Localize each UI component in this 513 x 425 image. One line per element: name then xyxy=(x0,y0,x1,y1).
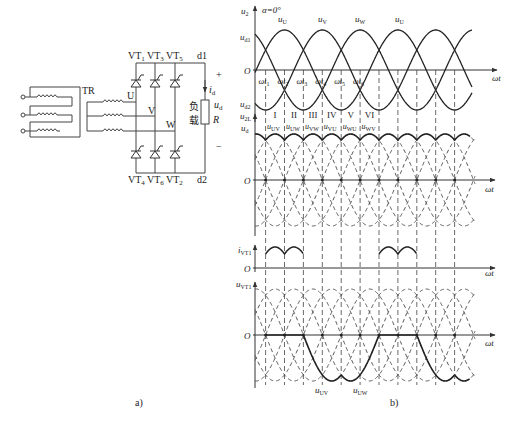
crossing-dot-1-0 xyxy=(264,334,267,337)
interval-roman-1: I xyxy=(274,110,277,120)
crossing-dot-0-8 xyxy=(415,179,418,182)
crossing-dot-0-9 xyxy=(434,179,437,182)
thyristor-bottom-2 xyxy=(170,146,183,158)
time-mark-2: ωt2 xyxy=(278,77,289,87)
origin-1: O xyxy=(244,66,251,76)
wt-axis-2: ωt xyxy=(485,184,494,194)
ud-envelope xyxy=(255,134,470,140)
ud1-label: ud1 xyxy=(240,32,251,43)
crossing-dot-0-5 xyxy=(359,179,362,182)
interval-roman-4: IV xyxy=(327,110,337,120)
thyristor-gate xyxy=(138,75,144,80)
interval-roman-3: III xyxy=(308,110,317,120)
wt-axis-1: ωt xyxy=(492,73,501,83)
crossing-dot-0-1 xyxy=(283,179,286,182)
phase-v-label: V xyxy=(148,105,156,116)
interval-voltage-6: uWV xyxy=(362,122,377,132)
thyristor-body xyxy=(170,151,180,158)
thyristor-bottom-0 xyxy=(131,146,144,158)
crossing-dot-0-3 xyxy=(321,179,324,182)
wt-axis-3: ωt xyxy=(485,268,494,278)
thyristor-gate xyxy=(177,75,183,80)
time-mark-5: ωt5 xyxy=(334,77,345,87)
origin-2: O xyxy=(244,176,251,186)
time-mark-3: ωt3 xyxy=(296,77,307,87)
time-mark-sub: 2 xyxy=(285,81,288,87)
load-cn-1: 负 xyxy=(189,100,199,112)
vt5-sub: 5 xyxy=(179,55,183,63)
thyristor-bottom-1 xyxy=(150,146,163,158)
u2L-axis-label: u2L xyxy=(240,111,252,122)
uvt1-bold-uUW-2 xyxy=(455,375,470,381)
vt6-label: VT6 xyxy=(147,174,164,187)
terminal-2 xyxy=(21,113,25,117)
crossing-dot-1-4 xyxy=(340,334,343,337)
crossing-dot-0-0 xyxy=(264,179,267,182)
tr-label: TR xyxy=(82,85,95,96)
time-mark-sub: 1 xyxy=(266,81,269,87)
crossing-dot-1-5 xyxy=(359,334,362,337)
terminal-3 xyxy=(21,129,25,133)
crossing-dot-0-2 xyxy=(302,179,305,182)
interval-roman-2: II xyxy=(291,110,297,120)
u2-axis-label: u2 xyxy=(241,6,249,17)
interval-voltage-2: uUW xyxy=(286,122,300,132)
three-phase-bridge-circuit xyxy=(21,63,209,173)
ivt1-axis-label: iVT1 xyxy=(238,245,252,256)
vt4-label: VT4 xyxy=(128,174,145,187)
thyristor-top-2 xyxy=(170,75,183,87)
crossing-dot-1-8 xyxy=(415,334,418,337)
thyristor-gate xyxy=(138,146,144,151)
interval-voltage-sub: VU xyxy=(328,126,337,132)
interval-voltage-5: uWU xyxy=(343,122,358,132)
thyristor-gate xyxy=(177,146,183,151)
id-label: id xyxy=(209,84,216,97)
thyristor-body xyxy=(150,80,160,87)
interval-voltage-3: uVW xyxy=(305,122,319,132)
phase-u-label: U xyxy=(127,90,135,101)
time-mark-sub: 6 xyxy=(361,81,364,87)
thyristor-gate xyxy=(157,75,163,80)
time-mark-1: ωt1 xyxy=(259,77,270,87)
ud-axis-label: ud xyxy=(241,123,249,134)
crossing-dot-0-10 xyxy=(453,179,456,182)
vt2-label: VT2 xyxy=(166,174,183,187)
time-mark-4: ωt4 xyxy=(315,77,326,87)
time-marks: ωt1ωt2ωt3ωt4ωt5ωt6 xyxy=(259,77,364,87)
interval-voltage-sub: UV xyxy=(271,126,280,132)
caption-a: a) xyxy=(135,397,143,409)
uW-peak-label: uW xyxy=(355,14,366,25)
vt3-label: VT3 xyxy=(147,50,164,63)
ud2-label: ud2 xyxy=(240,99,251,110)
waveform-plots xyxy=(253,6,497,388)
time-mark-sub: 5 xyxy=(342,81,345,87)
thyristor-body xyxy=(131,151,141,158)
interval-voltage-1: uUV xyxy=(267,122,280,132)
crossing-dot-0-4 xyxy=(340,179,343,182)
uV-peak-label: uV xyxy=(318,14,328,25)
phase-w-label: W xyxy=(166,119,176,130)
vt1-sub: 1 xyxy=(141,55,145,63)
vt4-sub: 4 xyxy=(141,179,145,187)
wt-axis-4: ωt xyxy=(485,338,494,348)
minus-sign: − xyxy=(216,141,222,152)
interval-voltage-sub: WV xyxy=(366,126,377,132)
terminal-1 xyxy=(21,95,25,99)
crossing-dot-1-6 xyxy=(378,334,381,337)
load-cn-2: 载 xyxy=(189,115,199,126)
plus-sign: + xyxy=(216,69,222,80)
uUW-bottom-label: uUW xyxy=(353,385,368,396)
caption-b: b) xyxy=(390,397,398,409)
thyristor-gate xyxy=(157,146,163,151)
interval-roman-6: VI xyxy=(365,110,375,120)
interval-voltage-sub: UW xyxy=(290,126,300,132)
crossing-dot-1-10 xyxy=(453,334,456,337)
thyristor-top-0 xyxy=(131,75,144,87)
interval-voltage-sub: WU xyxy=(347,126,358,132)
interval-voltage-4: uVU xyxy=(324,122,337,132)
d1-label: d1 xyxy=(197,50,207,61)
vt3-sub: 3 xyxy=(160,55,164,63)
uU-peak-label-2: uU xyxy=(395,14,405,25)
origin-3: O xyxy=(244,264,251,274)
time-mark-sub: 3 xyxy=(304,81,307,87)
